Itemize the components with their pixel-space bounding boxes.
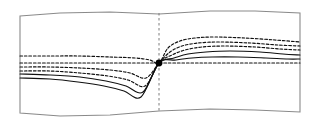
convergence-node-marker [156, 60, 163, 67]
characteristics-diagram [0, 0, 319, 125]
node-group [156, 60, 163, 67]
figure-container [0, 0, 319, 125]
